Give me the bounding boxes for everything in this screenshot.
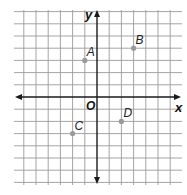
point-label-b: B [136, 33, 144, 47]
point-label-a: A [86, 45, 95, 59]
point-label-d: D [123, 106, 132, 120]
point-label-c: C [75, 119, 84, 133]
x-axis-label: x [174, 100, 183, 115]
coordinate-plane: y x O ABCD [0, 0, 187, 195]
x-axis-left-arrow-icon [15, 94, 22, 100]
y-axis-label: y [84, 7, 93, 22]
y-axis-down-arrow-icon [94, 177, 100, 184]
y-axis-up-arrow-icon [94, 10, 100, 17]
origin-label: O [86, 99, 96, 113]
